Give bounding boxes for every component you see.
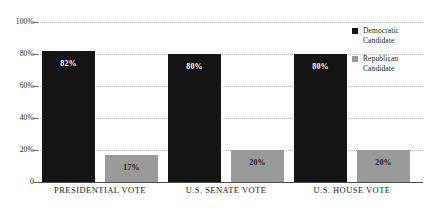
legend-label-line2: Candidate — [363, 36, 394, 45]
bar-democratic-us-senate-vote[interactable]: 80% — [168, 54, 221, 182]
legend-item-republican-candidate[interactable]: RepublicanCandidate — [352, 54, 427, 73]
bar-value-label: 80% — [294, 63, 347, 71]
bar-value-label: 20% — [231, 159, 284, 167]
ytick-label-100: 100% — [0, 18, 34, 26]
legend: DemocraticCandidate RepublicanCandidate — [352, 26, 427, 82]
legend-item-label: DemocraticCandidate — [363, 26, 399, 45]
bar-group-us-senate-vote: 80% 20% — [168, 22, 284, 182]
bar-republican-us-house-vote[interactable]: 20% — [357, 150, 410, 182]
category-label-us-senate-vote: U.S. SENATE VOTE — [168, 186, 284, 195]
legend-item-label: RepublicanCandidate — [363, 54, 398, 73]
legend-label-line2: Candidate — [363, 64, 394, 73]
bar-value-label: 80% — [168, 63, 221, 71]
ytick-label-80: 80% — [0, 50, 34, 58]
bar-democratic-us-house-vote[interactable]: 80% — [294, 54, 347, 182]
bar-value-label: 17% — [105, 164, 158, 172]
ytick-label-60: 60% — [0, 82, 34, 90]
bar-republican-presidential-vote[interactable]: 17% — [105, 155, 158, 182]
legend-label-line1: Republican — [363, 54, 398, 63]
legend-swatch-icon — [352, 56, 358, 62]
category-label-us-house-vote: U.S. HOUSE VOTE — [294, 186, 410, 195]
legend-label-line1: Democratic — [363, 26, 399, 35]
legend-swatch-icon — [352, 28, 358, 34]
ytick-label-20: 20% — [0, 146, 34, 154]
bar-group-presidential-vote: 82% 17% — [42, 22, 158, 182]
category-label-presidential-vote: PRESIDENTIAL VOTE — [42, 186, 158, 195]
bar-republican-us-senate-vote[interactable]: 20% — [231, 150, 284, 182]
bar-democratic-presidential-vote[interactable]: 82% — [42, 51, 95, 182]
ytick-label-0: 0 — [0, 178, 34, 186]
bar-chart: 82% 17% 80% 20% 80% 20% 100% 80% — [0, 0, 427, 218]
ytick-label-40: 40% — [0, 114, 34, 122]
axis-baseline — [38, 182, 423, 183]
bar-value-label: 20% — [357, 159, 410, 167]
legend-item-democratic-candidate[interactable]: DemocraticCandidate — [352, 26, 427, 45]
bar-value-label: 82% — [42, 60, 95, 68]
